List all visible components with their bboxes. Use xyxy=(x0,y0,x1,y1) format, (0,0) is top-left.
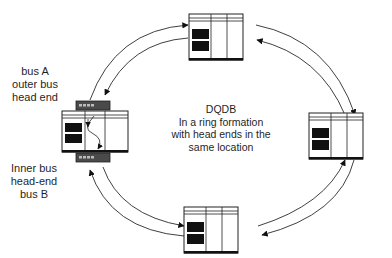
bus-b-line-2: head-end xyxy=(2,175,66,188)
diagram-title: DQDB xyxy=(165,103,277,116)
center-description: DQDB In a ring formation with head ends … xyxy=(165,103,277,153)
bus-a-line-2: outer bus xyxy=(5,78,65,91)
node-bottom xyxy=(184,207,238,254)
link-bottom-left xyxy=(90,167,184,236)
node-top xyxy=(189,14,243,61)
link-left-top xyxy=(90,25,188,100)
bus-a-line-1: bus A xyxy=(5,65,65,78)
bus-b-line-1: Inner bus xyxy=(2,162,66,175)
node-left-head-end xyxy=(62,101,128,162)
node-right xyxy=(309,113,363,160)
description-line-2: In a ring formation xyxy=(165,116,277,129)
bus-a-line-3: head end xyxy=(5,91,65,104)
bus-b-label: Inner bus head-end bus B xyxy=(2,162,66,201)
link-top-right xyxy=(256,25,355,115)
bus-b-line-3: bus B xyxy=(2,188,66,201)
description-line-4: same location xyxy=(165,141,277,154)
link-right-bottom xyxy=(258,160,354,235)
description-line-3: with head ends in the xyxy=(165,128,277,141)
bus-a-label: bus A outer bus head end xyxy=(5,65,65,104)
